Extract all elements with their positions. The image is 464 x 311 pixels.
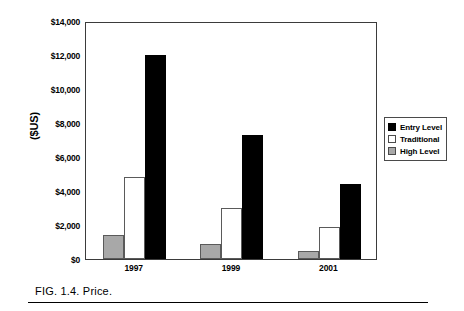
x-axis-tick-labels: 199719992001 [85, 263, 377, 279]
y-tick-label: $4,000 [22, 187, 80, 197]
x-tick-label-1999: 1999 [222, 263, 241, 273]
x-tick-label-1997: 1997 [124, 263, 143, 273]
legend-label: Traditional [400, 135, 439, 144]
bar-high-1999 [200, 244, 221, 259]
legend-item: Traditional [388, 133, 442, 145]
y-tick-label: $6,000 [22, 153, 80, 163]
x-tick-label-2001: 2001 [319, 263, 338, 273]
chart-legend: Entry LevelTraditionalHigh Level [384, 117, 447, 161]
legend-item: Entry Level [388, 121, 442, 133]
legend-swatch-icon [388, 147, 396, 155]
bar-high-1997 [103, 235, 124, 259]
bar-group-1997 [86, 23, 183, 259]
bar-entry-2001 [340, 184, 361, 259]
y-tick-label: $14,000 [22, 17, 80, 27]
bar-traditional-1999 [221, 208, 242, 259]
y-tick-label: $2,000 [22, 221, 80, 231]
figure-container: ($US) $0$2,000$4,000$6,000$8,000$10,000$… [0, 0, 464, 311]
legend-swatch-icon [388, 135, 396, 143]
bar-high-2001 [298, 251, 319, 260]
legend-item: High Level [388, 145, 442, 157]
y-tick-label: $8,000 [22, 119, 80, 129]
y-axis-tick-labels: $0$2,000$4,000$6,000$8,000$10,000$12,000… [22, 22, 80, 260]
y-tick-label: $10,000 [22, 85, 80, 95]
plot-area [85, 22, 377, 260]
bar-group-1999 [183, 23, 280, 259]
bar-entry-1999 [242, 135, 263, 259]
legend-label: Entry Level [400, 123, 442, 132]
bar-entry-1997 [145, 55, 166, 259]
bar-traditional-2001 [319, 227, 340, 259]
legend-label: High Level [400, 147, 439, 156]
plot-inner [86, 23, 376, 259]
legend-swatch-icon [388, 123, 396, 131]
figure-caption: FIG. 1.4. Price. [35, 285, 112, 297]
bar-group-2001 [281, 23, 378, 259]
bar-traditional-1997 [124, 177, 145, 259]
y-tick-label: $12,000 [22, 51, 80, 61]
caption-divider [28, 302, 428, 303]
y-tick-label: $0 [22, 255, 80, 265]
